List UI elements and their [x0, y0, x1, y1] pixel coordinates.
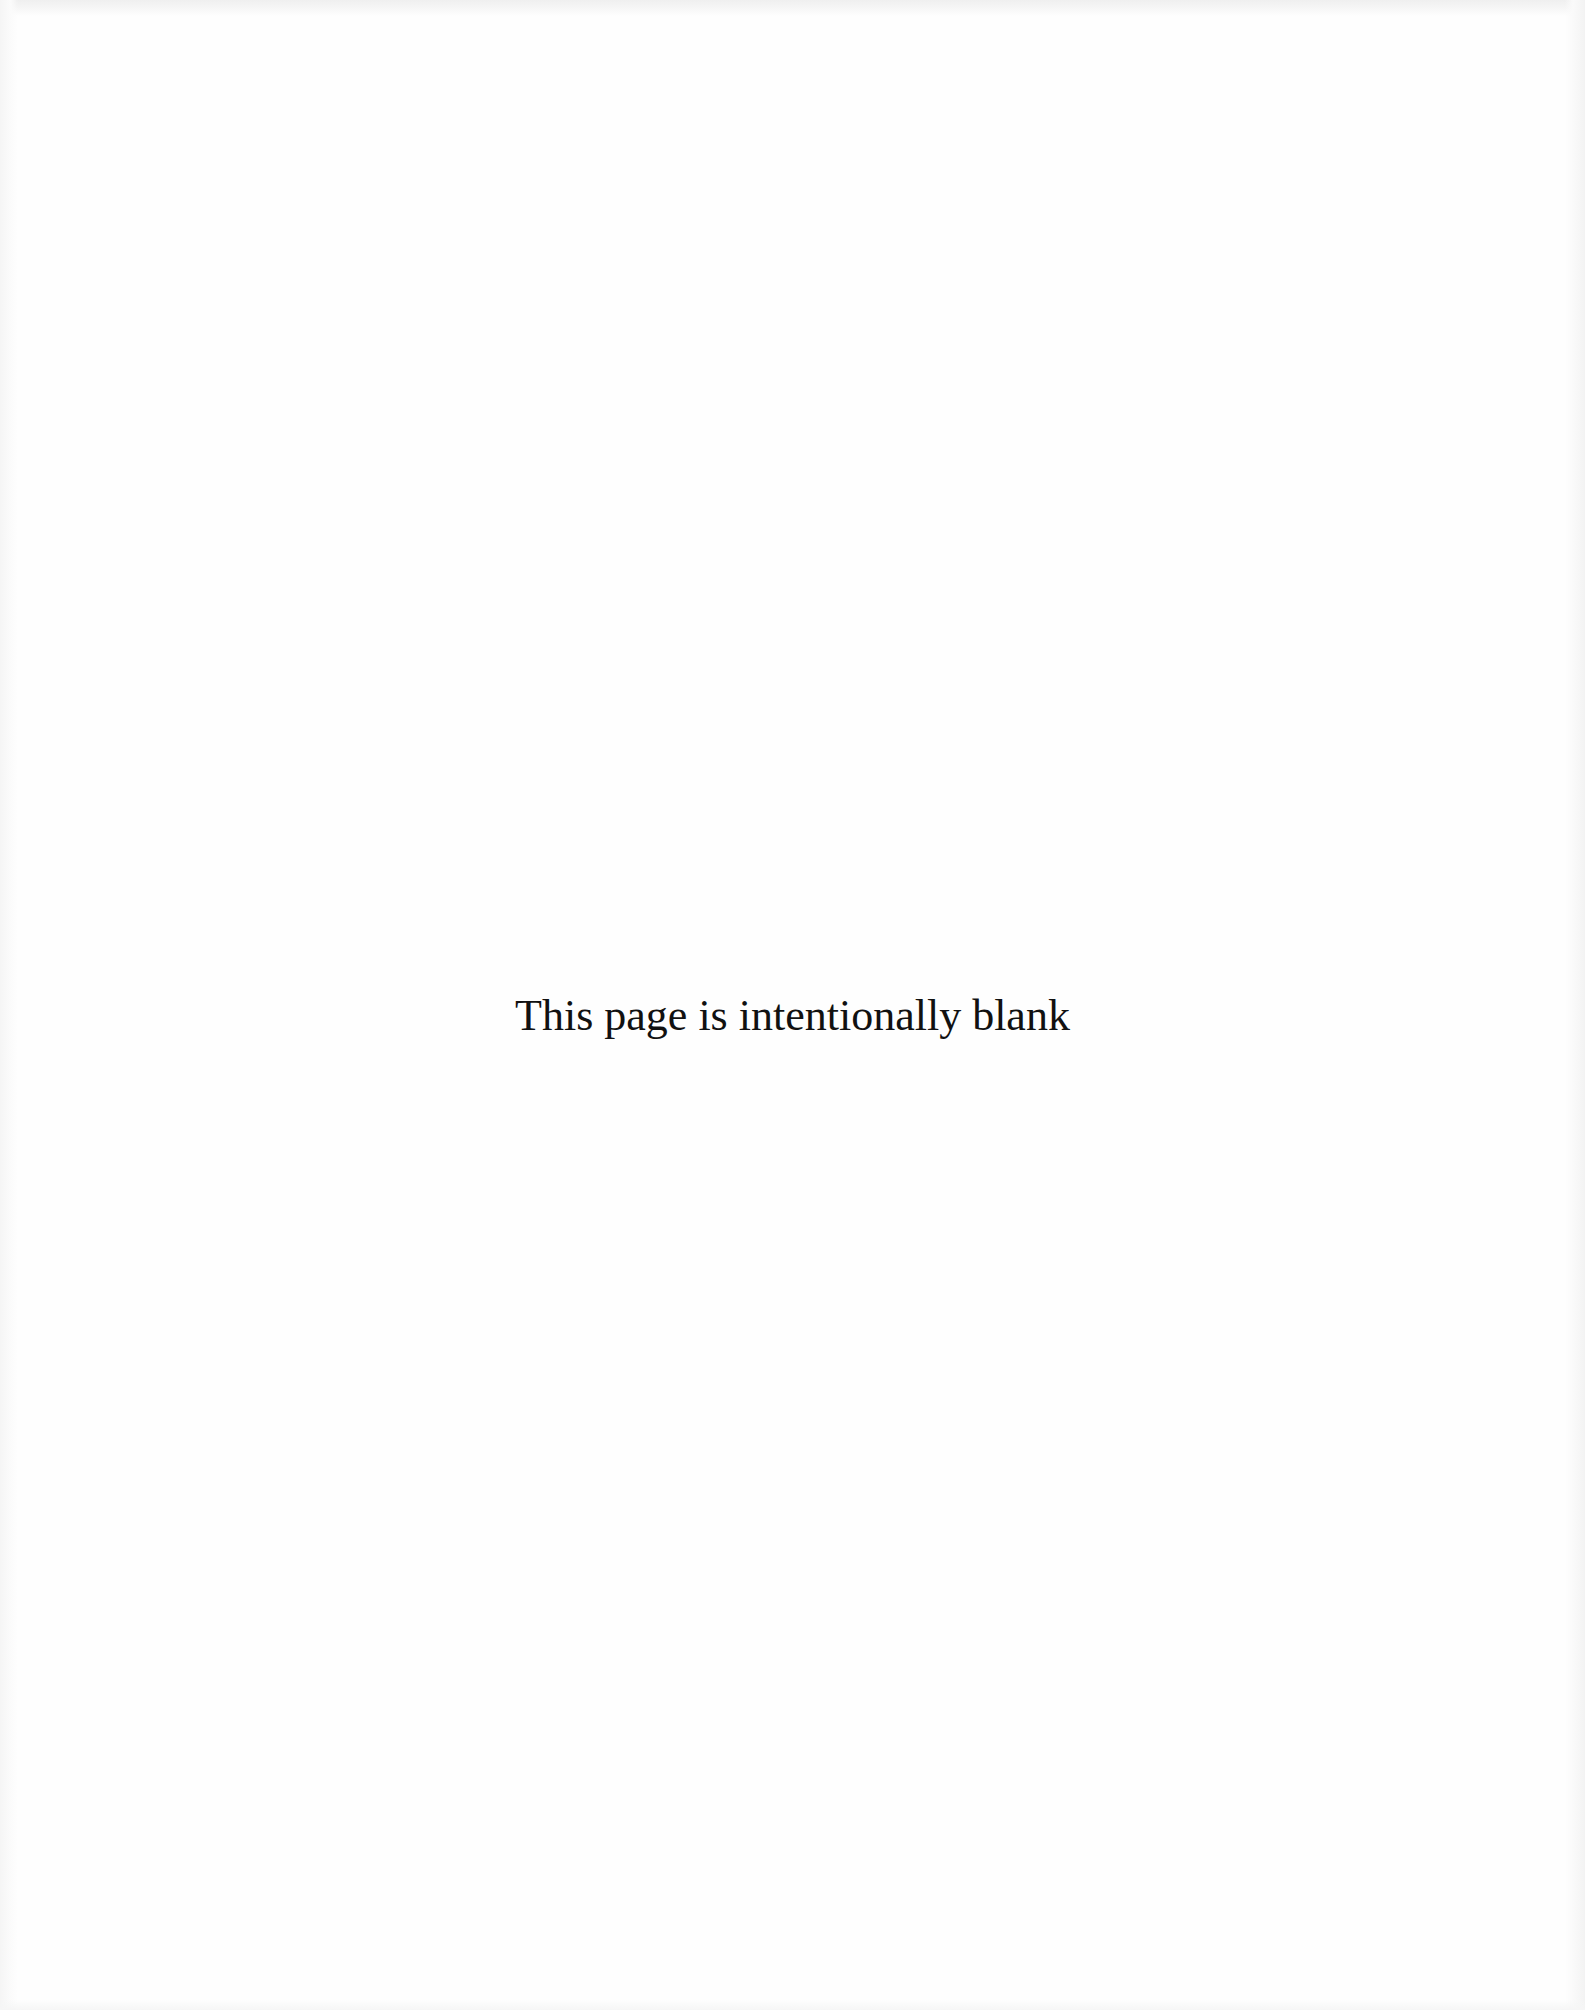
scan-edge-top — [0, 0, 1585, 16]
document-page: This page is intentionally blank — [0, 0, 1585, 2010]
intentionally-blank-notice: This page is intentionally blank — [0, 990, 1585, 1042]
scan-edge-bottom — [0, 2000, 1585, 2010]
